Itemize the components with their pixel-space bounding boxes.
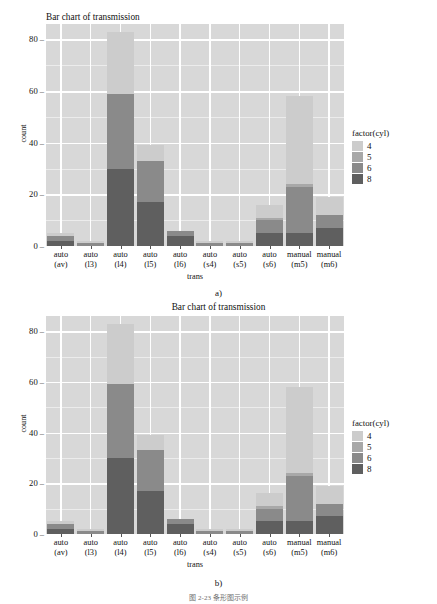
legend-item-label: 8 [367, 464, 372, 474]
bar-segment-cyl-6 [107, 94, 134, 169]
bar-segment-cyl-8 [286, 521, 313, 534]
bar-auto-(l5) [137, 24, 164, 246]
chart-a-y-axis: 0–20–40–60–80– [14, 24, 44, 246]
chart-b-y-axis: 0–20–40–60–80– [14, 316, 44, 534]
x-tick-label: auto(l4) [113, 250, 127, 270]
chart-a-x-axis-title: trans [46, 272, 344, 281]
bar-auto-(l4) [107, 24, 134, 246]
bar-segment-cyl-6 [137, 161, 164, 202]
bar-segment-cyl-8 [107, 458, 134, 534]
legend-item-cyl-4[interactable]: 4 [352, 140, 389, 151]
bar-auto-(l3) [77, 316, 104, 534]
legend-item-label: 6 [367, 163, 372, 173]
legend-item-label: 6 [367, 453, 372, 463]
legend-swatch-icon [352, 431, 363, 441]
x-tick-mark [270, 246, 271, 249]
x-tick-mark [91, 534, 92, 537]
legend-item-cyl-6[interactable]: 6 [352, 452, 389, 463]
x-tick-label: auto(s6) [262, 538, 276, 558]
bar-manual-(m5) [286, 24, 313, 246]
bar-auto-(s5) [226, 24, 253, 246]
bar-segment-cyl-5 [256, 218, 283, 221]
legend-swatch-icon [352, 152, 363, 162]
y-tick-label: 40– [29, 428, 44, 438]
bar-auto-(s6) [256, 24, 283, 246]
bar-segment-cyl-6 [286, 187, 313, 233]
x-tick-label: auto(l5) [143, 250, 157, 270]
bar-segment-cyl-4 [256, 493, 283, 506]
legend-item-cyl-6[interactable]: 6 [352, 162, 389, 173]
bar-auto-(av) [47, 316, 74, 534]
bar-segment-cyl-4 [77, 529, 104, 532]
x-tick-mark [180, 246, 181, 249]
bar-manual-(m6) [316, 24, 343, 246]
bar-auto-(s4) [196, 316, 223, 534]
chart-b-legend: factor(cyl)4568 [352, 418, 389, 474]
x-tick-label: auto(l3) [83, 250, 97, 270]
x-tick-mark [299, 246, 300, 249]
bar-auto-(l3) [77, 24, 104, 246]
legend-item-cyl-5[interactable]: 5 [352, 441, 389, 452]
x-tick-label: auto(s4) [203, 538, 217, 558]
x-tick-label: auto(s4) [203, 250, 217, 270]
bar-segment-cyl-8 [316, 228, 343, 246]
legend-item-cyl-8[interactable]: 8 [352, 463, 389, 474]
bar-segment-cyl-5 [286, 473, 313, 476]
x-tick-mark [240, 246, 241, 249]
chart-a-plot-area: count0–20–40–60–80–auto(av)auto(l3)auto(… [0, 0, 437, 290]
legend-item-cyl-5[interactable]: 5 [352, 151, 389, 162]
bar-segment-cyl-8 [316, 516, 343, 534]
x-tick-mark [121, 246, 122, 249]
bar-auto-(s4) [196, 24, 223, 246]
bar-auto-(av) [47, 24, 74, 246]
y-tick-label: 80– [29, 326, 44, 336]
bar-auto-(l4) [107, 316, 134, 534]
x-tick-mark [210, 246, 211, 249]
bar-segment-cyl-6 [47, 236, 74, 241]
bar-segment-cyl-4 [226, 529, 253, 532]
x-tick-mark [180, 534, 181, 537]
bar-segment-cyl-4 [226, 241, 253, 244]
bar-segment-cyl-4 [286, 387, 313, 473]
bar-auto-(l6) [167, 24, 194, 246]
y-tick-label: 20– [29, 189, 44, 199]
legend-item-label: 4 [367, 431, 372, 441]
chart-a-legend: factor(cyl)4568 [352, 128, 389, 184]
bar-segment-cyl-6 [167, 519, 194, 524]
figure-caption: 图 2-23 条形图示例 [0, 592, 437, 602]
bar-segment-cyl-6 [256, 220, 283, 233]
bar-segment-cyl-4 [137, 435, 164, 450]
bar-segment-cyl-4 [137, 145, 164, 160]
bar-segment-cyl-8 [107, 169, 134, 246]
bar-segment-cyl-4 [196, 529, 223, 532]
y-tick-label: 40– [29, 138, 44, 148]
y-tick-label: 80– [29, 34, 44, 44]
figure-page: Bar chart of transmission count0–20–40–6… [0, 0, 437, 604]
x-tick-mark [240, 534, 241, 537]
y-tick-label: 60– [29, 86, 44, 96]
legend-item-cyl-8[interactable]: 8 [352, 173, 389, 184]
bar-auto-(l5) [137, 316, 164, 534]
legend-item-cyl-4[interactable]: 4 [352, 430, 389, 441]
legend-swatch-icon [352, 141, 363, 151]
legend-item-label: 5 [367, 152, 372, 162]
panel-label-b: b) [0, 578, 437, 588]
x-tick-mark [329, 246, 330, 249]
bar-segment-cyl-8 [137, 202, 164, 246]
x-tick-mark [299, 534, 300, 537]
figure-chart-a: Bar chart of transmission count0–20–40–6… [0, 0, 437, 290]
bar-segment-cyl-5 [256, 506, 283, 509]
legend-item-label: 8 [367, 174, 372, 184]
bar-segment-cyl-4 [316, 197, 343, 215]
legend-item-label: 4 [367, 141, 372, 151]
bar-segment-cyl-4 [77, 241, 104, 244]
bar-segment-cyl-4 [47, 233, 74, 236]
bar-segment-cyl-6 [47, 524, 74, 529]
x-tick-label: auto(s5) [232, 538, 246, 558]
legend-swatch-icon [352, 174, 363, 184]
bar-segment-cyl-6 [167, 231, 194, 236]
bar-segment-cyl-4 [107, 32, 134, 94]
y-tick-label: 60– [29, 377, 44, 387]
bar-segment-cyl-4 [107, 324, 134, 385]
x-tick-mark [61, 246, 62, 249]
